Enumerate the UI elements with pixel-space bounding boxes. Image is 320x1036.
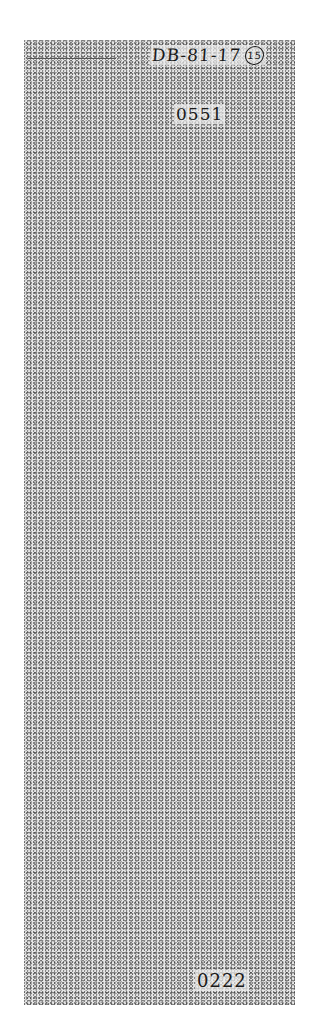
circled-page-number: 15 — [245, 46, 265, 65]
handwritten-document-id: DB-81-17 15 — [149, 45, 267, 65]
document-id-text: DB-81-17 — [151, 45, 242, 65]
top-stamp-number: 0551 — [174, 104, 225, 124]
top-rule-line — [28, 58, 116, 59]
bottom-stamp-number: 0222 — [195, 970, 249, 991]
scanned-page: DB-81-17 15 0551 0222 — [24, 40, 295, 1005]
